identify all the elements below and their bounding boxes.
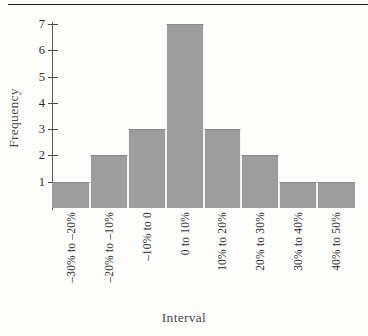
x-axis-title: Interval	[0, 310, 368, 326]
x-label-cell: 20% to 30%	[241, 212, 279, 304]
bar-cell	[166, 24, 204, 208]
x-axis-tick-label: 0 to 10%	[179, 212, 191, 255]
x-label-cell: –30% to –20%	[52, 212, 90, 304]
y-axis-tick-label: 2	[39, 148, 45, 163]
bar-cell	[128, 24, 166, 208]
bar-cell	[279, 24, 317, 208]
caption-remnant-text	[0, 0, 368, 3]
histogram-figure: 1234567 Frequency –30% to –20%–20% to –1…	[0, 0, 368, 336]
x-axis-tick-label: 10% to 20%	[216, 212, 228, 271]
bar-cell	[52, 24, 90, 208]
x-axis-tick-label: –20% to –10%	[103, 212, 115, 283]
bar	[90, 155, 128, 208]
bar	[204, 129, 242, 208]
bar	[52, 182, 90, 208]
bar	[279, 182, 317, 208]
x-label-cell: 30% to 40%	[279, 212, 317, 304]
bar	[317, 182, 355, 208]
bar	[241, 155, 279, 208]
x-axis-tick-label: 40% to 50%	[330, 212, 342, 271]
bar	[166, 24, 204, 208]
y-axis-tick-label: 7	[39, 17, 45, 32]
x-axis-tick-labels: –30% to –20%–20% to –10%–10% to 00 to 10…	[52, 212, 355, 304]
x-axis-tick-label: –30% to –20%	[65, 212, 77, 283]
y-axis-tick-label: 4	[39, 95, 45, 110]
header-rule	[8, 4, 368, 5]
bar-series	[52, 24, 355, 208]
bar-cell	[90, 24, 128, 208]
x-axis-tick-label: –10% to 0	[141, 212, 153, 261]
bar-cell	[317, 24, 355, 208]
x-axis-tick-label: 30% to 40%	[292, 212, 304, 271]
bar-cell	[204, 24, 242, 208]
bar	[128, 129, 166, 208]
x-label-cell: –20% to –10%	[90, 212, 128, 304]
x-label-cell: –10% to 0	[128, 212, 166, 304]
y-axis-title: Frequency	[6, 88, 22, 148]
x-label-cell: 10% to 20%	[204, 212, 242, 304]
x-label-cell: 40% to 50%	[317, 212, 355, 304]
y-axis-tick-label: 3	[39, 122, 45, 137]
y-axis-tick-label: 6	[39, 43, 45, 58]
x-label-cell: 0 to 10%	[166, 212, 204, 304]
y-axis-tick-label: 1	[39, 174, 45, 189]
bar-cell	[241, 24, 279, 208]
x-axis-tick-label: 20% to 30%	[254, 212, 266, 271]
y-axis-tick-label: 5	[39, 69, 45, 84]
